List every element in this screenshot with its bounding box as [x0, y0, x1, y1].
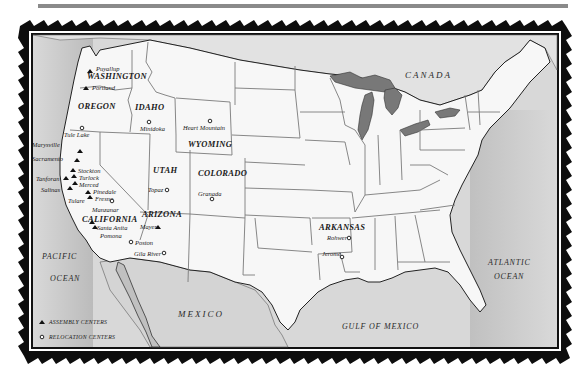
atlantic-label-2: OCEAN	[494, 272, 524, 281]
svg-text:Portland: Portland	[91, 84, 116, 91]
svg-text:Jerome: Jerome	[322, 250, 341, 257]
state-utah: UTAH	[153, 165, 177, 175]
circle-icon	[80, 126, 84, 130]
svg-text:Gila River: Gila River	[134, 250, 162, 257]
atlantic-label-1: ATLANTIC	[487, 258, 531, 267]
state-wyoming: WYOMING	[188, 139, 233, 149]
gulf-label: GULF OF MEXICO	[342, 322, 419, 331]
relocation-center-marker[interactable]: Rohwer	[326, 234, 351, 241]
svg-text:Rohwer: Rohwer	[326, 234, 348, 241]
svg-text:Santa Anita: Santa Anita	[97, 224, 127, 231]
svg-text:Puyallup: Puyallup	[95, 65, 120, 72]
svg-text:Salinas: Salinas	[41, 186, 61, 193]
circle-icon	[147, 120, 151, 124]
state-idaho: IDAHO	[134, 102, 164, 112]
svg-text:Granada: Granada	[198, 190, 221, 197]
relocation-center-marker[interactable]: Gila River	[134, 250, 166, 257]
pacific-label-2: OCEAN	[50, 274, 80, 283]
pacific-label-1: PACIFIC	[41, 252, 77, 261]
svg-text:Mayer: Mayer	[139, 223, 157, 230]
svg-text:Heart Mountain: Heart Mountain	[182, 124, 225, 131]
svg-text:Tule Lake: Tule Lake	[64, 131, 90, 138]
svg-text:Topaz: Topaz	[148, 186, 164, 193]
legend-relocation-label: RELOCATION CENTERS	[48, 334, 115, 340]
svg-text:Turlock: Turlock	[79, 174, 99, 181]
svg-text:Tanforan: Tanforan	[36, 175, 60, 182]
assembly-center-marker: Tulare	[68, 197, 85, 204]
svg-text:Marysville: Marysville	[31, 141, 60, 148]
legend-assembly-label: ASSEMBLY CENTERS	[48, 319, 107, 325]
circle-icon	[40, 335, 44, 339]
svg-text:Stockton: Stockton	[78, 167, 100, 174]
circle-icon	[129, 240, 133, 244]
mexico-label: MEXICO	[177, 309, 224, 319]
svg-text:Minidoka: Minidoka	[139, 125, 165, 132]
svg-text:Pinedale: Pinedale	[92, 188, 116, 195]
svg-text:Pomona: Pomona	[99, 232, 122, 239]
svg-text:Tulare: Tulare	[68, 197, 85, 204]
state-colorado: COLORADO	[198, 168, 247, 178]
circle-icon	[210, 197, 214, 201]
state-arizona: ARIZONA	[141, 209, 182, 219]
circle-icon	[162, 251, 166, 255]
circle-icon	[110, 199, 114, 203]
svg-text:Manzanar: Manzanar	[91, 206, 119, 213]
map-container: CANADA MEXICO PACIFIC OCEAN ATLANTIC OCE…	[0, 0, 586, 379]
state-arkansas: ARKANSAS	[318, 222, 365, 232]
state-oregon: OREGON	[78, 101, 116, 111]
svg-text:Poston: Poston	[134, 239, 153, 246]
canada-label: CANADA	[405, 70, 452, 80]
circle-icon	[347, 236, 351, 240]
circle-icon	[208, 119, 212, 123]
circle-icon	[165, 188, 169, 192]
state-washington: WASHINGTON	[87, 71, 147, 81]
svg-text:Merced: Merced	[78, 181, 99, 188]
svg-text:Sacramento: Sacramento	[32, 155, 64, 162]
